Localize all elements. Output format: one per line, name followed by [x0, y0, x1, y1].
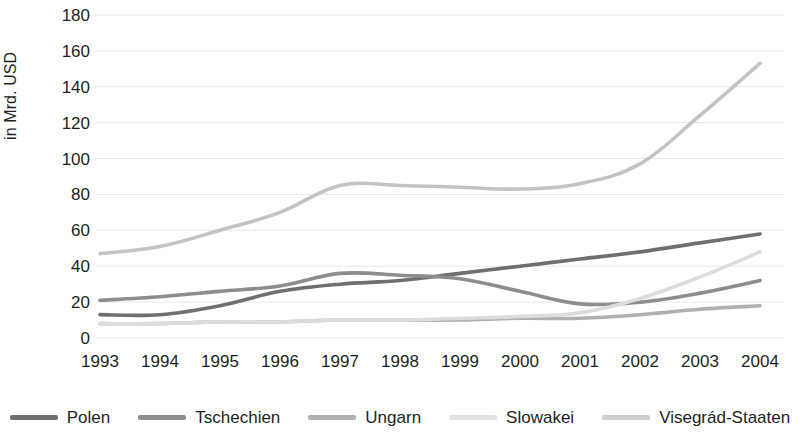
y-tick-label: 140: [2, 79, 90, 96]
x-tick-label: 2004: [741, 352, 779, 372]
series-lines: [100, 63, 760, 323]
plot-area: [96, 0, 784, 345]
x-tick-label: 1996: [261, 352, 299, 372]
x-tick-label: 2000: [501, 352, 539, 372]
plot-svg: [96, 0, 784, 345]
y-tick-label: 120: [2, 115, 90, 132]
legend-color-swatch: [449, 415, 497, 420]
legend-label: Visegrád-Staaten: [659, 408, 790, 427]
y-tick-label: 180: [2, 7, 90, 24]
x-tick-label: 1993: [81, 352, 119, 372]
y-tick-label: 40: [2, 258, 90, 275]
x-tick-label: 1995: [201, 352, 239, 372]
y-tick-label: 60: [2, 222, 90, 239]
series-line-tschechien: [100, 273, 760, 305]
legend-label: Ungarn: [365, 408, 421, 427]
x-tick-label: 1998: [381, 352, 419, 372]
x-axis-tick-labels: 1993199419951996199719981999200020012002…: [96, 352, 784, 380]
x-tick-label: 1999: [441, 352, 479, 372]
x-tick-label: 1994: [141, 352, 179, 372]
legend-item[interactable]: Slowakei: [449, 408, 602, 427]
legend-label: Tschechien: [195, 408, 280, 427]
y-tick-label: 20: [2, 294, 90, 311]
legend-color-swatch: [602, 415, 650, 420]
y-tick-label: 80: [2, 186, 90, 203]
line-chart: in Mrd. USD 180160140120100806040200 199…: [0, 0, 800, 433]
legend-color-swatch: [308, 415, 356, 420]
legend-label: Slowakei: [506, 408, 574, 427]
chart-legend: PolenTschechienUngarnSlowakeiVisegrád-St…: [0, 402, 800, 433]
x-tick-label: 2003: [681, 352, 719, 372]
y-tick-label: 0: [2, 330, 90, 347]
x-tick-label: 2001: [561, 352, 599, 372]
legend-color-swatch: [138, 415, 186, 420]
gridlines: [96, 15, 784, 338]
y-tick-label: 160: [2, 43, 90, 60]
legend-label: Polen: [67, 408, 110, 427]
legend-item[interactable]: Visegrád-Staaten: [602, 408, 790, 427]
legend-color-swatch: [10, 415, 58, 420]
x-tick-label: 2002: [621, 352, 659, 372]
y-tick-label: 100: [2, 151, 90, 168]
legend-item[interactable]: Ungarn: [308, 408, 449, 427]
legend-item[interactable]: Polen: [10, 408, 138, 427]
y-axis-tick-labels: 180160140120100806040200: [0, 0, 90, 360]
x-tick-label: 1997: [321, 352, 359, 372]
legend-item[interactable]: Tschechien: [138, 408, 308, 427]
